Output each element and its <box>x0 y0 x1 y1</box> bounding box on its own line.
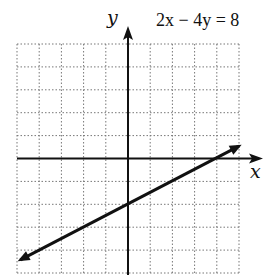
graph-figure: y x 2x − 4y = 8 <box>0 0 279 279</box>
equation-label: 2x − 4y = 8 <box>156 10 239 31</box>
y-axis-label: y <box>107 6 118 28</box>
x-axis-label: x <box>250 160 261 182</box>
coordinate-plane <box>0 0 279 279</box>
